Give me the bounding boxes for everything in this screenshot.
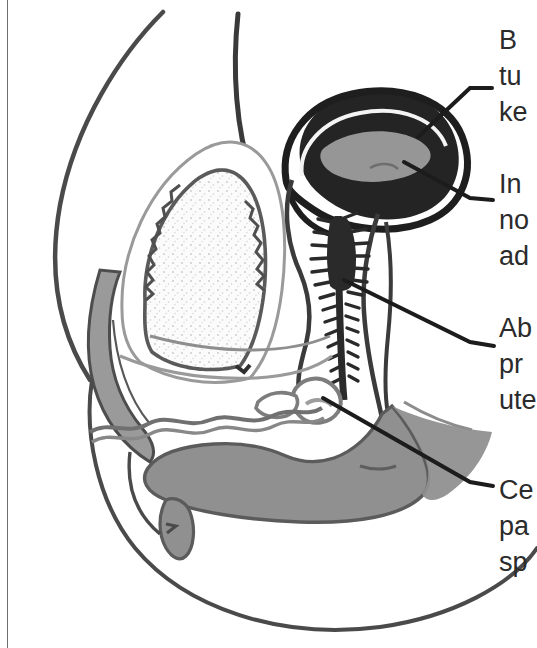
label-bladder-tumor: B tu ke [499, 22, 528, 130]
pelvic-anatomy-illustration [0, 0, 537, 648]
anatomical-figure: B tu ke In no ad Ab pr ute Ce pa sp [0, 0, 537, 648]
label-abnormal-proximal-uterus: Ab pr ute [499, 310, 537, 418]
posterior-fornix-fold [385, 222, 390, 414]
label-cervix-parametrium-spread: Ce pa sp [499, 472, 534, 580]
uterine-body-right-wall [364, 214, 385, 444]
anal-canal-tail [160, 499, 193, 559]
label-invasion-node: In no ad [499, 166, 529, 274]
uterus-group [285, 91, 467, 234]
vaginal-canal-group [311, 213, 369, 400]
rectum-group [129, 402, 492, 559]
